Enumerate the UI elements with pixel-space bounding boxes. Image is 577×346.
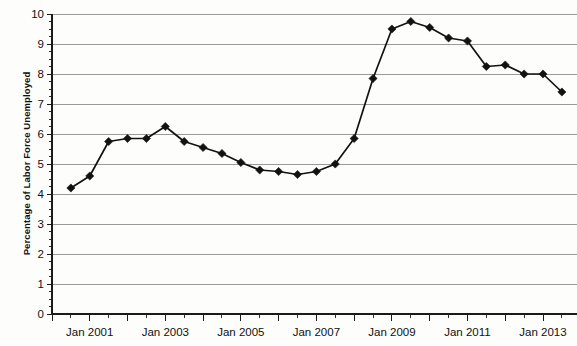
x-tick-label-group: Jan 2001Jan 2003Jan 2005Jan 2007Jan 2009… [66,326,567,338]
data-point-marker [501,61,509,69]
data-point-marker [199,143,207,151]
svg-text:8: 8 [38,68,44,80]
data-point-marker [293,170,301,178]
data-point-marker [407,17,415,25]
data-point-marker [237,158,245,166]
chart-canvas: 012345678910 Jan 2001Jan 2003Jan 2005Jan… [0,0,577,346]
svg-text:Jan 2007: Jan 2007 [293,326,340,338]
data-point-marker [388,25,396,33]
data-point-marker [67,184,75,192]
svg-text:5: 5 [38,158,44,170]
data-point-marker [218,149,226,157]
svg-text:Jan 2011: Jan 2011 [444,326,490,338]
data-point-marker [256,166,264,174]
svg-text:6: 6 [38,128,44,140]
svg-text:10: 10 [31,8,44,20]
data-point-marker [312,167,320,175]
svg-text:Jan 2009: Jan 2009 [368,326,415,338]
data-point-marker [444,34,452,42]
data-point-marker [105,137,113,145]
unemployment-line-chart: Percentage of Labor Force Unemployed 012… [0,0,577,346]
svg-text:Jan 2001: Jan 2001 [66,326,113,338]
data-point-marker [426,23,434,31]
svg-text:1: 1 [38,278,44,290]
svg-text:Jan 2003: Jan 2003 [142,326,189,338]
gridlines-group [52,14,577,284]
svg-text:0: 0 [38,308,44,320]
svg-text:Jan 2013: Jan 2013 [519,326,566,338]
svg-text:7: 7 [38,98,44,110]
y-tick-group [47,14,52,314]
x-tick-group [52,314,562,321]
y-axis-title: Percentage of Labor Force Unemployed [21,34,32,294]
data-point-marker [520,70,528,78]
data-point-marker [275,167,283,175]
svg-text:3: 3 [38,218,44,230]
data-point-marker [142,134,150,142]
data-point-marker [123,134,131,142]
data-point-marker [86,172,94,180]
svg-text:4: 4 [38,188,45,200]
data-point-marker [369,74,377,82]
svg-text:9: 9 [38,38,44,50]
y-tick-label-group: 012345678910 [31,8,44,320]
svg-text:2: 2 [38,248,44,260]
data-series-line [71,22,562,189]
svg-text:Jan 2005: Jan 2005 [217,326,264,338]
